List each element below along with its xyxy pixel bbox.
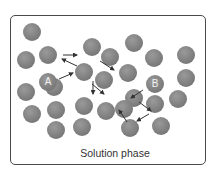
caption: Solution phase: [70, 147, 160, 159]
arrow: [92, 84, 104, 94]
arrow: [139, 102, 151, 111]
arrow: [119, 110, 127, 122]
arrow: [137, 114, 149, 121]
arrow: [100, 61, 114, 70]
arrow: [62, 59, 77, 66]
arrow: [59, 73, 73, 79]
arrow: [131, 90, 143, 98]
